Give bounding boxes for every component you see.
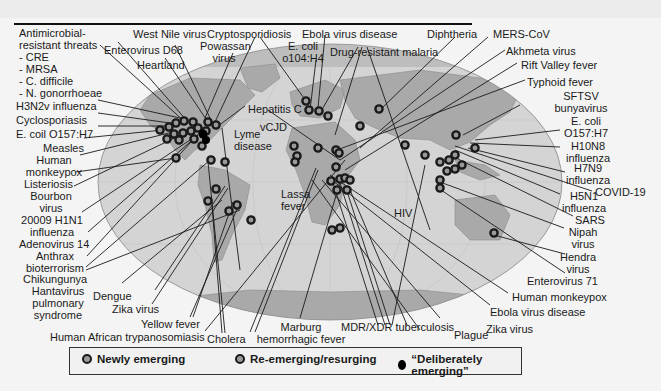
label-cryptosporidiosis: Cryptosporidiosis: [207, 28, 291, 40]
label-listeriosis: Listeriosis: [24, 178, 73, 190]
label-hantavirus-line2: pulmonary: [30, 297, 86, 309]
label-h1n1-line1: 20009 H1N1: [18, 214, 86, 226]
label-sftsv: SFTSV bunyavirus: [550, 90, 612, 114]
newly-emerging-marker-icon: [82, 354, 92, 364]
legend-newly-emerging: Newly emerging: [82, 353, 185, 365]
label-h5n1-line1: H5N1: [558, 190, 610, 202]
label-nipah-line2: virus: [563, 238, 603, 250]
label-diphtheria: Diphtheria: [427, 28, 477, 40]
label-h7n9-line2: influenza: [562, 174, 614, 186]
label-cre: - CRE: [19, 51, 102, 63]
label-bourbon-line2: virus: [25, 202, 77, 214]
label-antimicrobial-line1: Antimicrobial-: [19, 27, 102, 39]
label-anthrax-line1: Anthrax: [24, 250, 86, 262]
label-enterovirus-d68: Enterovirus D68: [104, 44, 183, 56]
label-zika-left: Zika virus: [112, 303, 159, 315]
legend-reemerging-label: Re-emerging/resurging: [250, 353, 377, 365]
label-ecoli-o157-right: E. coli O157:H7: [560, 115, 612, 139]
label-lassa-line1: Lassa: [281, 188, 310, 200]
label-mers-cov: MERS-CoV: [493, 28, 550, 40]
label-anthrax: Anthrax bioterrorism: [24, 250, 86, 274]
label-marburg-line1: Marburg: [253, 321, 349, 333]
legend: Newly emerging Re-emerging/resurging “De…: [69, 347, 522, 375]
legend-reemerging: Re-emerging/resurging: [235, 353, 377, 365]
label-lassa-line2: fever: [281, 200, 310, 212]
label-hendra-line1: Hendra: [555, 251, 601, 263]
label-sftsv-line2: bunyavirus: [550, 102, 612, 114]
label-h1n1: 20009 H1N1 influenza: [18, 214, 86, 238]
label-adenovirus14: Adenovirus 14: [19, 238, 89, 250]
label-ecoli-o104: E. coli o104:H4: [280, 40, 326, 64]
label-h5n1: H5N1 influenza: [558, 190, 610, 214]
label-marburg-line2: hemorrhagic fever: [253, 333, 349, 345]
label-bourbon-virus: Bourbon virus: [25, 190, 77, 214]
legend-deliberate-label: “Deliberately emerging”: [411, 353, 521, 377]
label-ecoli-o104-line1: E. coli: [280, 40, 326, 52]
legend-newly-label: Newly emerging: [97, 353, 185, 365]
label-human-monkeypox-left: Human monkeypox: [18, 154, 90, 178]
label-cyclosporiasis: Cyclosporiasis: [16, 114, 87, 126]
label-lassa-fever: Lassa fever: [281, 188, 310, 212]
label-powassan: Powassan virus: [200, 40, 248, 64]
label-west-nile: West Nile virus: [133, 28, 206, 40]
label-h5n1-line2: influenza: [558, 202, 610, 214]
label-drug-resistant-malaria: Drug-resistant malaria: [330, 46, 438, 58]
label-powassan-line1: Powassan: [200, 40, 248, 52]
label-ngonorrhoeae: - N. gonorrhoeae: [19, 87, 102, 99]
label-hantavirus-line1: Hantavirus: [30, 285, 86, 297]
label-ecoli-o104-line2: o104:H4: [280, 52, 326, 64]
label-h10n8-line1: H10N8: [562, 140, 614, 152]
label-hantavirus: Hantavirus pulmonary syndrome: [30, 285, 86, 321]
label-lyme-line1: Lyme: [234, 128, 272, 140]
label-hepatitis-c: Hepatitis C: [248, 103, 302, 115]
label-zika-right: Zika virus: [486, 323, 533, 335]
label-antimicrobial-line2: resistant threats: [19, 39, 102, 51]
label-sftsv-line1: SFTSV: [550, 90, 612, 102]
label-marburg: Marburg hemorrhagic fever: [253, 321, 349, 345]
label-cholera: Cholera: [207, 333, 246, 345]
deliberate-marker-icon: [398, 360, 406, 370]
label-chikungunya: Chikungunya: [23, 273, 87, 285]
label-mdr-xdr-tb: MDR/XDR tuberculosis: [341, 321, 454, 333]
label-human-monkeypox-line1: Human: [18, 154, 90, 166]
label-ecoli-o157-left: E. coil O157:H7: [16, 128, 93, 140]
label-mrsa: - MRSA: [19, 63, 102, 75]
label-ebola-bottom: Ebola virus disease: [490, 306, 585, 318]
label-ecoli-right-line1: E. coli: [560, 115, 612, 127]
label-sars: SARS: [575, 214, 605, 226]
label-human-african-trypanosomiasis: Human African trypanosomiasis: [50, 331, 205, 343]
label-lyme-disease: Lyme disease: [234, 128, 272, 152]
reemerging-marker-icon: [235, 354, 245, 364]
label-nipah: Nipah virus: [563, 226, 603, 250]
label-human-monkeypox-right: Human monkeypox: [512, 291, 607, 303]
label-cdiff: - C. difficile: [19, 75, 102, 87]
label-h7n9-line1: H7N9: [562, 162, 614, 174]
label-dengue: Dengue: [93, 290, 132, 302]
label-enterovirus-71: Enterovirus 71: [527, 275, 598, 287]
label-ebola-top: Ebola virus disease: [302, 28, 397, 40]
label-h1n1-line2: influenza: [18, 226, 86, 238]
label-hendra-line2: virus: [555, 263, 601, 275]
label-powassan-line2: virus: [200, 52, 248, 64]
label-akhmeta: Akhmeta virus: [506, 45, 576, 57]
label-typhoid: Typhoid fever: [527, 76, 593, 88]
label-h10n8: H10N8 influenza: [562, 140, 614, 164]
label-ecoli-right-line2: O157:H7: [560, 127, 612, 139]
label-lyme-line2: disease: [234, 140, 272, 152]
label-plague: Plague: [454, 329, 488, 341]
label-heartland: Heartland: [137, 59, 185, 71]
label-bourbon-line1: Bourbon: [25, 190, 77, 202]
label-h3n2v: H3N2v influenza: [16, 100, 97, 112]
label-human-monkeypox-line2: monkeypox: [18, 166, 90, 178]
label-hendra: Hendra virus: [555, 251, 601, 275]
label-rift-valley: Rift Valley fever: [521, 59, 597, 71]
legend-deliberately-emerging: “Deliberately emerging”: [398, 353, 521, 377]
label-hantavirus-line3: syndrome: [30, 309, 86, 321]
label-h7n9: H7N9 influenza: [562, 162, 614, 186]
label-yellow-fever: Yellow fever: [141, 318, 200, 330]
label-hiv: HIV: [394, 207, 412, 219]
label-nipah-line1: Nipah: [563, 226, 603, 238]
label-antimicrobial: Antimicrobial- resistant threats - CRE -…: [19, 27, 102, 99]
label-measles: Measles: [20, 142, 84, 154]
